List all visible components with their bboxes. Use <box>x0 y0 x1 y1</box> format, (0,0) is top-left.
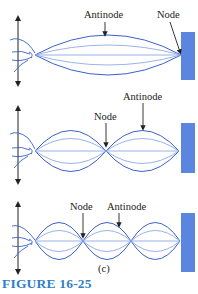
hand-icon <box>10 133 35 168</box>
label-node: Node <box>157 9 180 20</box>
wall <box>181 213 195 272</box>
label-node: Node <box>94 111 117 122</box>
string-wave <box>35 223 180 260</box>
panel-third-harmonic: Node Antinode (c) <box>12 201 195 275</box>
hand-icon <box>12 226 35 258</box>
label-antinode: Antinode <box>107 201 146 212</box>
label-antinode: Antinode <box>84 9 123 20</box>
label-node: Node <box>70 201 93 212</box>
label-antinode: Antinode <box>123 91 162 102</box>
wall <box>181 123 195 173</box>
string-wave <box>35 131 179 172</box>
node-pointer <box>170 22 180 52</box>
panel-sublabel: (c) <box>98 263 110 275</box>
hand-icon <box>10 39 35 72</box>
panel-second-harmonic: Antinode Node <box>10 91 195 182</box>
wall <box>181 32 195 80</box>
standing-wave-diagram: Antinode Node Antinode Node <box>0 0 198 294</box>
panel-fundamental: Antinode Node <box>10 9 195 84</box>
figure-caption: FIGURE 16-25 <box>2 276 92 292</box>
string-wave <box>35 35 181 75</box>
